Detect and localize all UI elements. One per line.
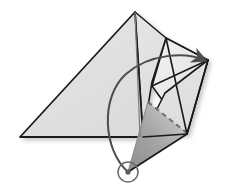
origami-diagram-root xyxy=(0,0,228,192)
pivot-point-marker xyxy=(118,162,138,182)
pivot-center-dot xyxy=(125,169,130,174)
origami-figure xyxy=(0,0,228,192)
paper-body-group xyxy=(20,12,208,137)
